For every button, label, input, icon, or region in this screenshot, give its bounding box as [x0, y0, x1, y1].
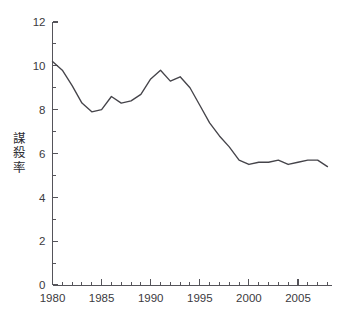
y-axis-title-char-3: 率 [10, 161, 28, 176]
data-series-line-murder-rate [53, 61, 328, 166]
y-axis-title: 謀 殺 率 [10, 132, 28, 176]
chart-container: 024681012 198019851990199520002005 謀 殺 率 [0, 0, 341, 323]
x-axis-group: 198019851990199520002005 [40, 279, 332, 304]
x-tick-label-2000: 2000 [236, 292, 262, 304]
x-tick-label-1985: 1985 [89, 292, 115, 304]
x-axis-major-ticks [53, 279, 299, 285]
murder-rate-line-chart: 024681012 198019851990199520002005 [0, 0, 341, 323]
y-axis-tick-labels: 024681012 [33, 16, 46, 291]
y-tick-label-0: 0 [39, 279, 45, 291]
x-tick-label-1995: 1995 [187, 292, 213, 304]
x-tick-label-2005: 2005 [285, 292, 311, 304]
x-axis-tick-labels: 198019851990199520002005 [40, 292, 311, 304]
x-tick-label-1990: 1990 [138, 292, 164, 304]
y-axis-title-char-1: 謀 [10, 132, 28, 147]
y-tick-label-4: 4 [39, 192, 46, 204]
y-tick-label-12: 12 [33, 16, 46, 28]
y-tick-label-2: 2 [39, 235, 45, 247]
y-tick-label-10: 10 [33, 60, 46, 72]
y-tick-label-6: 6 [39, 148, 45, 160]
x-tick-label-1980: 1980 [40, 292, 66, 304]
y-axis-group: 024681012 [33, 16, 58, 291]
y-axis-title-char-2: 殺 [10, 146, 28, 161]
y-tick-label-8: 8 [39, 104, 45, 116]
